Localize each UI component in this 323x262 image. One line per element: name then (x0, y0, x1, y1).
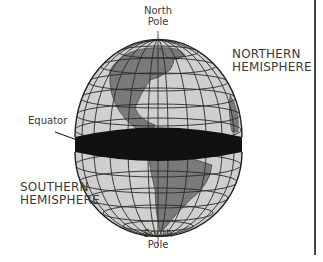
northern-hemisphere-label-line2: HEMISPHERE (232, 61, 312, 74)
right-border-rule (314, 0, 316, 255)
south-pole-label-line2: Pole (140, 239, 176, 250)
southern-hemisphere-label: SOUTHERN HEMISPHERE (20, 181, 100, 207)
north-pole-label: North Pole (140, 5, 176, 27)
south-pole-label: South Pole (140, 228, 176, 250)
equator-label: Equator (28, 115, 67, 126)
south-pole-label-line1: South (140, 228, 176, 239)
north-pole-label-line1: North (140, 5, 176, 16)
northern-hemisphere-label: NORTHERN HEMISPHERE (232, 48, 312, 74)
north-pole-label-line2: Pole (140, 16, 176, 27)
equator-band (75, 128, 242, 162)
southern-hemisphere-label-line2: HEMISPHERE (20, 194, 100, 207)
globe-illustration (0, 0, 323, 262)
